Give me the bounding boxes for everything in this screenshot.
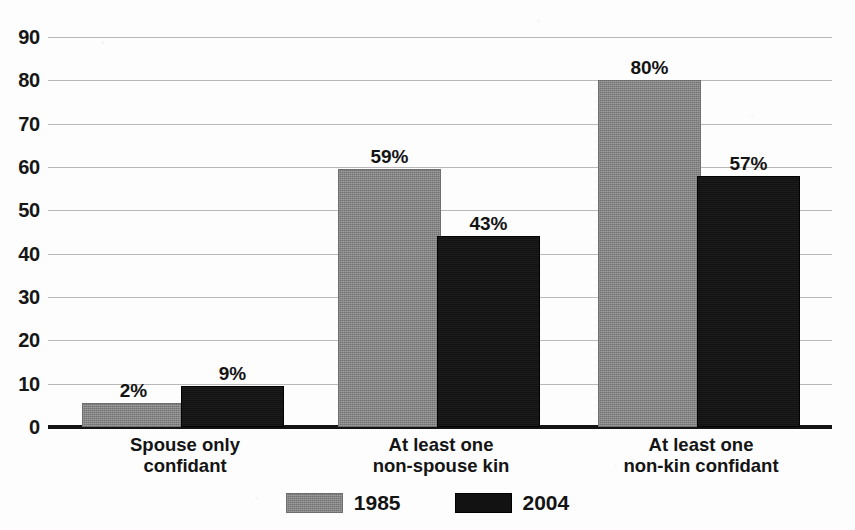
bar-value-label: 59% — [370, 147, 408, 166]
y-tick-label-20: 20 — [6, 330, 40, 350]
y-tick-label-80: 80 — [6, 70, 40, 90]
x-axis-label-line2: confidant — [35, 455, 335, 476]
bar-2004-group-2: 43% — [437, 236, 540, 427]
y-tick-label-70: 70 — [6, 114, 40, 134]
y-tick-label-90: 90 — [6, 27, 40, 47]
y-tick-label-60: 60 — [6, 157, 40, 177]
bar-value-label: 2% — [120, 381, 147, 400]
y-tick-label-50: 50 — [6, 200, 40, 220]
bar-2004-group-1: 9% — [181, 386, 284, 427]
bar-value-label: 43% — [469, 214, 507, 233]
bar-1985-group-1: 2% — [82, 403, 185, 427]
chart-legend: 19852004 — [0, 492, 855, 513]
x-axis-label-group-3: At least onenon-kin confidant — [551, 434, 851, 477]
bar-1985-group-3: 80% — [598, 80, 701, 427]
y-tick-label-30: 30 — [6, 287, 40, 307]
x-axis-label-line1: Spouse only — [130, 434, 240, 455]
bar-2004-group-3: 57% — [697, 176, 800, 427]
bar-chart: 9080706050403020100 2%9%59%43%80%57% Spo… — [0, 0, 855, 530]
gridline-70 — [48, 124, 832, 125]
plot-area: 2%9%59%43%80%57% — [48, 37, 832, 427]
y-tick-label-40: 40 — [6, 244, 40, 264]
bar-value-label: 57% — [729, 154, 767, 173]
y-tick-label-10: 10 — [6, 374, 40, 394]
x-axis-label-group-1: Spouse onlyconfidant — [35, 434, 335, 477]
legend-label-1985: 1985 — [354, 492, 401, 513]
bar-1985-group-2: 59% — [338, 169, 441, 427]
bar-value-label: 9% — [219, 364, 246, 383]
bar-value-label: 80% — [630, 58, 668, 77]
legend-swatch-1985 — [286, 493, 343, 513]
x-axis-label-line2: non-kin confidant — [551, 455, 851, 476]
x-axis-label-line1: At least one — [649, 434, 754, 455]
x-axis-label-line1: At least one — [389, 434, 494, 455]
gridline-80 — [48, 80, 832, 81]
legend-label-2004: 2004 — [523, 492, 570, 513]
x-axis-label-group-2: At least onenon-spouse kin — [291, 434, 591, 477]
legend-swatch-2004 — [455, 493, 512, 513]
legend-item-2004: 2004 — [455, 492, 570, 513]
x-axis-label-line2: non-spouse kin — [291, 455, 591, 476]
gridline-60 — [48, 167, 832, 168]
legend-item-1985: 1985 — [286, 492, 401, 513]
gridline-90 — [48, 37, 832, 38]
y-axis: 9080706050403020100 — [0, 37, 40, 427]
